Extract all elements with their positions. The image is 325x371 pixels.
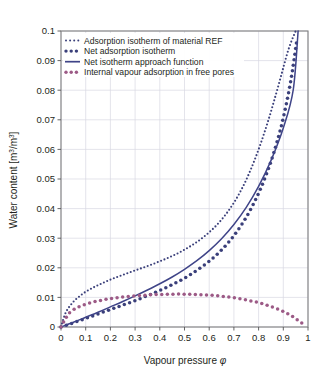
x-tick-label: 0.9 bbox=[277, 332, 290, 343]
legend-dot-swatch bbox=[64, 71, 67, 74]
y-axis-title: Water content [m3/m3] bbox=[8, 131, 20, 228]
legend-dot-swatch bbox=[75, 71, 78, 74]
legend-dot-swatch bbox=[70, 71, 73, 74]
legend-item-label: Net isotherm approach function bbox=[84, 57, 204, 67]
x-tick-label: 0.7 bbox=[227, 332, 240, 343]
y-tick-label: 0.05 bbox=[37, 173, 56, 184]
x-tick-label: 0.1 bbox=[79, 332, 92, 343]
legend-dot-swatch bbox=[69, 40, 71, 42]
x-tick-label: 0.6 bbox=[203, 332, 216, 343]
y-tick-label: 0.1 bbox=[42, 25, 55, 36]
legend-dot-swatch bbox=[73, 40, 75, 42]
x-tick-label: 0 bbox=[58, 332, 63, 343]
y-tick-label: 0.02 bbox=[37, 262, 56, 273]
legend-dot-swatch bbox=[64, 49, 67, 52]
y-tick-label: 0.09 bbox=[37, 55, 56, 66]
x-axis-title: Vapour pressure φ bbox=[144, 355, 227, 366]
legend-item-2[interactable]: Net isotherm approach function bbox=[65, 57, 204, 67]
x-tick-label: 0.5 bbox=[178, 332, 191, 343]
chart-figure: 00.10.20.30.40.50.60.70.80.91 00.010.020… bbox=[0, 0, 325, 371]
legend-dot-swatch bbox=[70, 49, 73, 52]
y-tick-label: 0.04 bbox=[37, 203, 56, 214]
y-tick-label: 0 bbox=[50, 321, 55, 332]
x-tick-label: 0.2 bbox=[104, 332, 117, 343]
x-tick-label: 1 bbox=[305, 332, 310, 343]
legend-item-3[interactable]: Internal vapour adsorption in free pores bbox=[64, 67, 234, 77]
chart-legend: Adsorption isotherm of material REFNet a… bbox=[63, 33, 244, 77]
legend-dot-swatch bbox=[77, 40, 79, 42]
y-tick-label: 0.01 bbox=[37, 292, 56, 303]
x-tick-label: 0.8 bbox=[252, 332, 265, 343]
y-tick-label: 0.07 bbox=[37, 114, 56, 125]
y-tick-label: 0.06 bbox=[37, 144, 56, 155]
legend-item-0[interactable]: Adsorption isotherm of material REF bbox=[65, 36, 223, 46]
legend-dot-swatch bbox=[65, 40, 67, 42]
legend-item-label: Adsorption isotherm of material REF bbox=[84, 36, 223, 46]
legend-item-label: Net adsorption isotherm bbox=[84, 46, 175, 56]
legend-dot-swatch bbox=[75, 49, 78, 52]
y-tick-label: 0.08 bbox=[37, 85, 56, 96]
y-tick-label: 0.03 bbox=[37, 233, 56, 244]
x-tick-label: 0.4 bbox=[153, 332, 166, 343]
legend-item-label: Internal vapour adsorption in free pores bbox=[84, 67, 234, 77]
x-tick-label: 0.3 bbox=[128, 332, 141, 343]
adsorption-isotherm-chart: 00.10.20.30.40.50.60.70.80.91 00.010.020… bbox=[0, 0, 325, 371]
